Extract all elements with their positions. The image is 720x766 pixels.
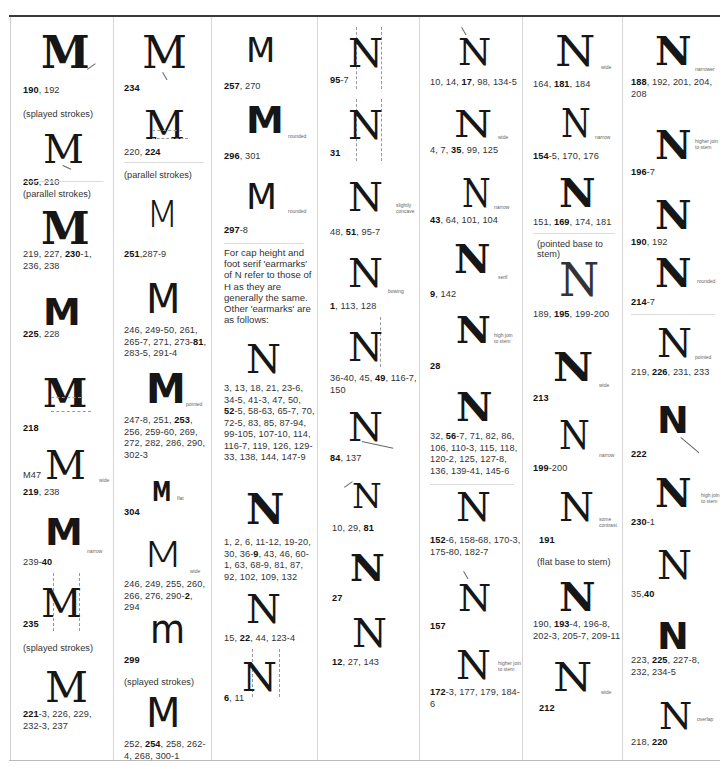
letter-specimen: N bbox=[655, 253, 692, 293]
letter-specimen: N bbox=[657, 401, 689, 439]
letter-specimen: M bbox=[246, 33, 275, 67]
annotation: higher join to stem bbox=[695, 139, 719, 150]
annotation: rounded bbox=[288, 209, 306, 215]
letter-specimen: m bbox=[150, 609, 185, 649]
reference-numbers: 27 bbox=[332, 593, 342, 605]
reference-numbers: 225, 228 bbox=[23, 329, 60, 341]
column-6: N wide 164, 181, 184 N narrow 154-5, 170… bbox=[522, 17, 622, 760]
reference-numbers: 220, 224 bbox=[124, 147, 161, 159]
letter-specimen: N bbox=[246, 589, 281, 629]
reference-numbers: 213 bbox=[533, 393, 549, 405]
letter-specimen: N bbox=[655, 31, 692, 71]
reference-numbers: 9, 142 bbox=[430, 289, 456, 301]
letter-specimen: N bbox=[454, 239, 491, 279]
annotation: wide bbox=[601, 690, 611, 696]
letter-specimen: M bbox=[41, 31, 90, 75]
reference-numbers: 218, 220 bbox=[631, 737, 668, 749]
reference-numbers: 299 bbox=[124, 655, 140, 667]
column-3: M 257, 270 M rounded 296, 301 M rounded … bbox=[211, 17, 317, 760]
annotation: narrow bbox=[599, 453, 614, 459]
reference-numbers: 10, 29, 81 bbox=[332, 523, 374, 535]
column-2: M 234 M 220, 224 (parallel strokes) M 25… bbox=[113, 17, 211, 760]
letter-specimen: N bbox=[655, 473, 692, 513]
reference-numbers: 31 bbox=[330, 148, 340, 160]
reference-numbers: 3, 13, 18, 21, 23-6, 34-5, 41-3, 47, 50,… bbox=[224, 383, 316, 464]
section-caption: (parallel strokes) bbox=[23, 189, 91, 199]
reference-numbers: 304 bbox=[124, 507, 140, 519]
letter-specimen: N bbox=[657, 545, 692, 585]
letter-specimen: N bbox=[348, 253, 383, 293]
guide-line bbox=[152, 130, 182, 131]
reference-numbers: 223, 225, 227-8, 232, 234-5 bbox=[631, 655, 719, 678]
letter-specimen: M bbox=[45, 667, 88, 709]
annotation: higher join to stem bbox=[498, 661, 522, 672]
letter-specimen: M bbox=[43, 293, 81, 331]
reference-numbers: 212 bbox=[539, 703, 555, 715]
letter-specimen: N bbox=[559, 487, 594, 527]
annotation: high join to stem bbox=[701, 493, 720, 504]
letter-specimen: M bbox=[246, 179, 277, 215]
letter-specimen: N bbox=[352, 479, 382, 513]
letter-specimen: M bbox=[43, 373, 87, 413]
letter-specimen: N bbox=[659, 697, 692, 735]
annotation: wide bbox=[498, 135, 508, 141]
reference-numbers: 191 bbox=[539, 535, 555, 547]
section-caption: (splayed strokes) bbox=[124, 677, 194, 687]
reference-numbers: 172-3, 177, 179, 184-6 bbox=[430, 687, 522, 710]
annotation: flat bbox=[177, 496, 184, 502]
reference-numbers: 35,40 bbox=[631, 589, 655, 601]
letter-specimen: M bbox=[146, 693, 181, 733]
reference-numbers: 157 bbox=[430, 621, 446, 633]
reference-numbers: 214-7 bbox=[631, 297, 655, 309]
reference-numbers: 84, 137 bbox=[330, 453, 361, 465]
reference-numbers: 154-5, 170, 176 bbox=[533, 151, 599, 163]
reference-numbers: 219, 227, 230-1, 236, 238 bbox=[23, 249, 111, 272]
letter-specimen: N bbox=[655, 195, 692, 235]
letter-specimen: N bbox=[458, 33, 491, 71]
reference-numbers: 219, 238 bbox=[23, 487, 60, 499]
reference-numbers: 4, 7, 35, 99, 125 bbox=[430, 145, 498, 157]
letter-specimen: N bbox=[456, 645, 491, 685]
reference-numbers: 190, 193-4, 196-8, 202-3, 205-7, 209-11 bbox=[533, 619, 621, 642]
letter-specimen: N bbox=[246, 339, 281, 379]
section-caption: (parallel strokes) bbox=[124, 170, 192, 180]
annotation: narrow bbox=[494, 205, 509, 211]
annotation: narrow bbox=[595, 135, 610, 141]
letter-specimen: N bbox=[350, 549, 385, 587]
reference-numbers: 252, 254, 258, 262-4, 268, 300-1 bbox=[124, 739, 210, 762]
letter-specimen: N bbox=[352, 613, 387, 653]
letter-specimen: N bbox=[456, 487, 491, 527]
column-7: N narrower 188, 192, 201, 204, 208 N hig… bbox=[622, 17, 720, 760]
reference-numbers: 1, 113, 128 bbox=[330, 301, 376, 313]
reference-numbers: 205, 210 bbox=[23, 177, 60, 189]
annotation: overlap bbox=[697, 717, 713, 723]
letter-specimen: M bbox=[45, 445, 86, 485]
reference-numbers: 219, 226, 231, 233 bbox=[631, 367, 709, 379]
letter-specimen: M bbox=[144, 105, 185, 145]
column-5: N 10, 14, 17, 98, 134-5 N wide 4, 7, 35,… bbox=[419, 17, 522, 760]
section-caption: (flat base to stem) bbox=[537, 557, 611, 567]
reference-numbers: 164, 181, 184 bbox=[533, 79, 591, 91]
intro-note: For cap height and foot serif 'earmarks'… bbox=[224, 247, 316, 325]
reference-numbers: 230-1 bbox=[631, 517, 655, 529]
reference-numbers: 221-3, 226, 229, 232-3, 237 bbox=[23, 709, 111, 732]
letter-specimen: N bbox=[553, 657, 592, 697]
guide-line bbox=[152, 138, 188, 139]
letter-specimen: N bbox=[458, 579, 491, 617]
reference-numbers: 1, 2, 6, 11-12, 19-20, 30, 36-9, 43, 46,… bbox=[224, 537, 316, 583]
letter-specimen: N bbox=[559, 415, 590, 455]
annotation: pointed bbox=[695, 355, 711, 361]
reference-numbers: 188, 192, 201, 204, 208 bbox=[631, 77, 719, 100]
letter-specimen: M bbox=[152, 479, 171, 505]
reference-numbers: 190, 192 bbox=[631, 237, 668, 249]
annotation: narrow bbox=[87, 549, 102, 555]
annotation: wide bbox=[190, 569, 200, 575]
reference-numbers: 28 bbox=[430, 361, 440, 373]
annotation: high join to stem bbox=[494, 333, 518, 344]
reference-numbers: 257, 270 bbox=[224, 81, 261, 93]
bottom-rule bbox=[9, 760, 720, 761]
letter-specimen: N bbox=[555, 31, 595, 73]
annotation: slightly concave bbox=[396, 203, 418, 214]
divider bbox=[124, 162, 204, 163]
guide-line bbox=[680, 437, 699, 453]
